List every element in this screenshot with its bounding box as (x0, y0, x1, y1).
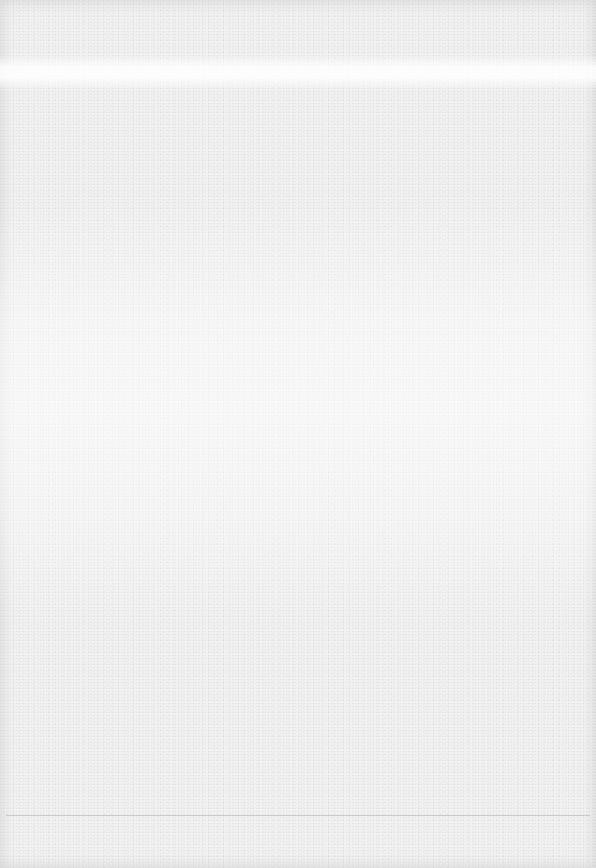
scan-light-band (0, 55, 596, 90)
scan-light-area (0, 200, 596, 620)
blank-page (0, 0, 596, 868)
horizontal-rule (6, 815, 590, 816)
